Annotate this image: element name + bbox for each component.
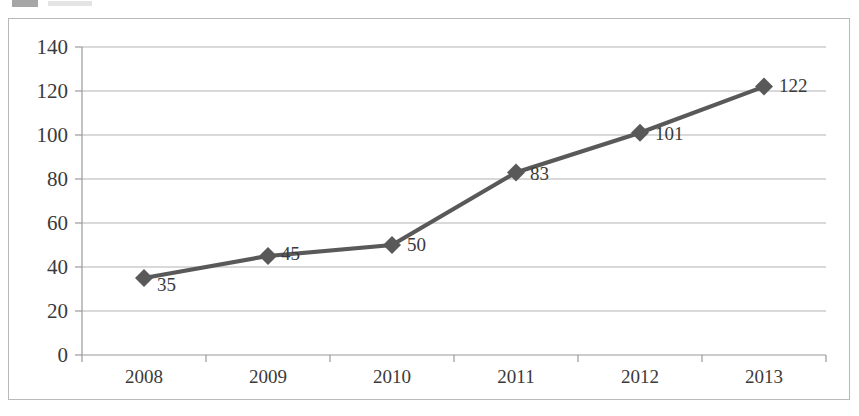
chart-frame <box>8 18 850 400</box>
legend-label-placeholder <box>48 1 92 6</box>
legend-strip <box>0 0 859 10</box>
legend-swatch-icon <box>12 0 38 7</box>
